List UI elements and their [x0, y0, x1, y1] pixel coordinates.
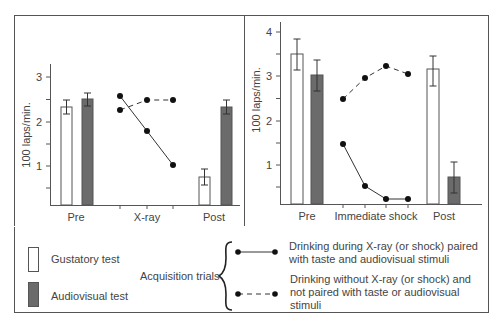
left-tick-1: 1: [36, 160, 42, 172]
right-y-ticks: [276, 32, 280, 187]
left-x-label-xray: X-ray: [134, 211, 161, 223]
right-tick-2: 2: [266, 115, 272, 127]
legend-solid-dot-left: [235, 249, 241, 255]
legend-acquisition-label: Acquisition trials: [140, 270, 220, 282]
legend-solid-dot-right: [272, 249, 278, 255]
left-x-label-pre: Pre: [67, 211, 84, 223]
left-solid-line-seg1: [120, 96, 147, 131]
right-pre-gustatory-bar: [291, 54, 303, 204]
legend-solid-text-1: Drinking during X-ray (or shock) paired: [289, 240, 478, 252]
figure: 3 2 1 100 laps/min.: [0, 0, 504, 330]
right-dashed-line: [343, 66, 408, 99]
left-chart: 3 2 1 100 laps/min.: [20, 64, 240, 223]
legend-dashed-text-1: Drinking without X-ray (or shock) and: [290, 273, 471, 285]
legend-dashed-text-3: stimuli: [290, 299, 321, 311]
legend-dashed-dot-right: [272, 291, 278, 297]
legend-gustatory-swatch: [29, 248, 39, 272]
legend-audiovisual-label: Audiovisual test: [51, 290, 128, 302]
right-solid-line: [343, 144, 408, 199]
right-x-label-post: Post: [433, 210, 455, 222]
right-chart: 4 3 2 1 100 laps/min.: [250, 22, 482, 222]
right-post-gustatory-bar: [427, 69, 439, 204]
right-tick-4: 4: [266, 26, 272, 38]
legend-audiovisual-swatch: [29, 283, 39, 307]
right-x-label-pre: Pre: [298, 210, 315, 222]
legend-dashed-text-2: not paired with taste or audiovisual: [290, 286, 459, 298]
right-y-label: 100 laps/min.: [250, 67, 262, 132]
legend-gustatory-label: Gustatory test: [51, 253, 119, 265]
left-pre-gustatory-bar: [61, 107, 72, 205]
left-post-audiovisual-bar: [221, 107, 232, 205]
left-tick-2: 2: [36, 116, 42, 128]
left-tick-3: 3: [36, 71, 42, 83]
right-x-label-immediate-shock: Immediate shock: [334, 210, 418, 222]
left-x-label-post: Post: [203, 211, 225, 223]
legend-brace: [219, 242, 232, 310]
right-tick-1: 1: [266, 159, 272, 171]
legend-dashed-dot-left: [235, 291, 241, 297]
left-pre-audiovisual-bar: [82, 99, 93, 205]
legend: Gustatory test Audiovisual test Acquisit…: [29, 240, 478, 311]
left-y-label: 100 laps/min.: [20, 102, 32, 167]
right-pre-audiovisual-bar: [311, 75, 323, 204]
legend-solid-text-2: with taste and audiovisual stimuli: [288, 253, 449, 265]
right-data-points: [340, 63, 411, 202]
left-y-ticks: [46, 77, 50, 188]
right-tick-3: 3: [266, 70, 272, 82]
left-solid-line-seg2: [147, 131, 173, 165]
